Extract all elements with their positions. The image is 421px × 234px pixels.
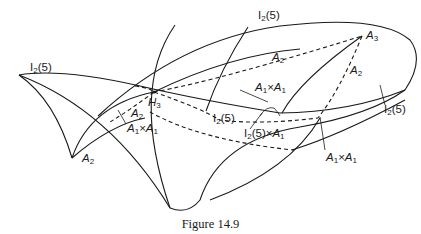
label-i2-5-left: I2(5): [30, 62, 52, 75]
figure-caption: Figure 14.9: [0, 217, 421, 232]
label-i2-5-right: I2(5): [384, 104, 406, 117]
leader-i2-5-right: [380, 85, 385, 105]
label-a2-bottom: A2: [82, 153, 94, 166]
label-a1xa1-left: A1×A1: [127, 123, 158, 136]
front-meridian: [151, 25, 175, 208]
stratification-diagram: [0, 0, 421, 234]
label-a2-top: A2: [272, 52, 284, 65]
figure-14-9: I2(5) I2(5) I2(5) I2(5) A3 H3 A2 A2 A2 A…: [0, 0, 421, 234]
outer-right-bottom-arc: [170, 90, 405, 210]
h3-point: [152, 90, 155, 93]
label-i2-5-top: I2(5): [258, 10, 280, 23]
label-a2-right: A2: [350, 65, 362, 78]
label-a2-center: A2: [131, 108, 143, 121]
label-i2-5-center: I2(5): [213, 113, 235, 126]
label-a1xa1-center: A1×A1: [255, 82, 286, 95]
left-spike-inner-edge: [19, 75, 170, 208]
label-a3: A3: [366, 30, 378, 43]
meridian-upper: [206, 27, 248, 111]
label-i2-5xa1: I2(5)×A1: [244, 128, 285, 141]
label-a1xa1-right: A1×A1: [326, 152, 357, 165]
label-h3: H3: [148, 97, 161, 110]
